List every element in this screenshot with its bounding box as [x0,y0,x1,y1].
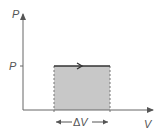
x-axis-label: V [144,118,153,130]
y-axis-label: P [12,8,20,20]
work-area [54,66,110,110]
pv-diagram: P P V ΔV [0,0,164,137]
delta-v-label: ΔV [73,116,89,128]
p-tick-label: P [9,60,17,72]
delta-variable: V [80,116,89,128]
